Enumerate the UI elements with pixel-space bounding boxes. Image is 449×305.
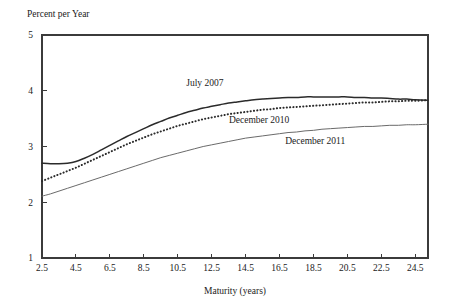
y-axis-title: Percent per Year <box>27 9 90 19</box>
x-tick-label: 16.5 <box>271 263 288 273</box>
x-tick-label: 20.5 <box>339 263 356 273</box>
series-line-1 <box>42 97 428 164</box>
x-tick-label: 2.5 <box>36 263 48 273</box>
plot-frame <box>42 35 428 258</box>
series-lines <box>42 97 428 196</box>
x-axis-ticks: 2.54.56.58.510.512.514.516.518.520.522.5… <box>36 254 424 273</box>
x-axis-title: Maturity (years) <box>204 286 266 297</box>
x-tick-label: 8.5 <box>138 263 150 273</box>
y-tick-label: 5 <box>28 30 33 40</box>
x-tick-label: 24.5 <box>407 263 424 273</box>
x-tick-label: 6.5 <box>104 263 116 273</box>
series-line-3 <box>42 124 428 196</box>
plot-border <box>42 35 428 258</box>
series-label-2: December 2010 <box>229 115 290 125</box>
yield-curve-chart: 12345 2.54.56.58.510.512.514.516.518.520… <box>0 0 449 305</box>
y-tick-label: 4 <box>28 86 33 96</box>
x-tick-label: 22.5 <box>373 263 390 273</box>
y-tick-label: 1 <box>28 253 33 263</box>
x-tick-label: 4.5 <box>70 263 82 273</box>
y-axis-ticks: 12345 <box>28 30 47 263</box>
x-tick-label: 18.5 <box>305 263 322 273</box>
x-tick-label: 10.5 <box>169 263 186 273</box>
chart-container: 12345 2.54.56.58.510.512.514.516.518.520… <box>0 0 449 305</box>
x-tick-label: 12.5 <box>203 263 220 273</box>
y-tick-label: 2 <box>28 198 33 208</box>
series-label-1: July 2007 <box>186 78 223 88</box>
x-tick-label: 14.5 <box>237 263 254 273</box>
y-tick-label: 3 <box>28 142 33 152</box>
series-label-3: December 2011 <box>285 136 345 146</box>
